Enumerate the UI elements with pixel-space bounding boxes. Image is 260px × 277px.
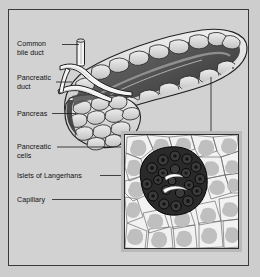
- label-pancreatic-duct: Pancreatic duct: [17, 74, 51, 91]
- label-islets-of-langerhans: Islets of Langerhans: [17, 172, 82, 181]
- label-pancreatic-cells: Pancreatic cells: [17, 143, 51, 160]
- histology-inset-frame: [124, 134, 239, 249]
- label-pancreas: Pancreas: [17, 110, 47, 119]
- label-common-bile-duct: Common bile duct: [17, 40, 46, 57]
- histology-inset: [121, 131, 242, 252]
- label-capillary: Capillary: [17, 196, 45, 205]
- histology-drawing: [125, 135, 239, 249]
- figure-pancreas-diagram: Common bile duct Pancreatic duct Pancrea…: [0, 0, 260, 277]
